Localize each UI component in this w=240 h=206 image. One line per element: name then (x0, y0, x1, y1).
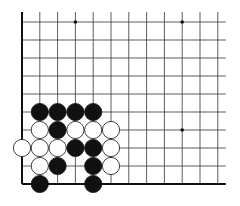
star-point (74, 20, 78, 24)
star-point (180, 20, 184, 24)
white-stone[interactable] (31, 157, 48, 174)
white-stone[interactable] (49, 139, 66, 156)
black-stone[interactable] (85, 157, 102, 174)
black-stone[interactable] (49, 121, 66, 138)
black-stone[interactable] (31, 103, 48, 120)
black-stone[interactable] (49, 103, 66, 120)
black-stone[interactable] (67, 139, 84, 156)
white-stone[interactable] (102, 121, 119, 138)
go-board[interactable] (0, 0, 240, 206)
white-stone[interactable] (102, 157, 119, 174)
white-stone[interactable] (102, 139, 119, 156)
white-stone[interactable] (67, 121, 84, 138)
black-stone[interactable] (67, 103, 84, 120)
star-point (180, 128, 184, 132)
black-stone[interactable] (85, 103, 102, 120)
black-stone[interactable] (85, 175, 102, 192)
black-stone[interactable] (49, 157, 66, 174)
white-stone[interactable] (85, 121, 102, 138)
white-stone[interactable] (31, 139, 48, 156)
black-stone[interactable] (31, 175, 48, 192)
white-stone[interactable] (31, 121, 48, 138)
black-stone[interactable] (85, 139, 102, 156)
white-stone[interactable] (13, 139, 30, 156)
